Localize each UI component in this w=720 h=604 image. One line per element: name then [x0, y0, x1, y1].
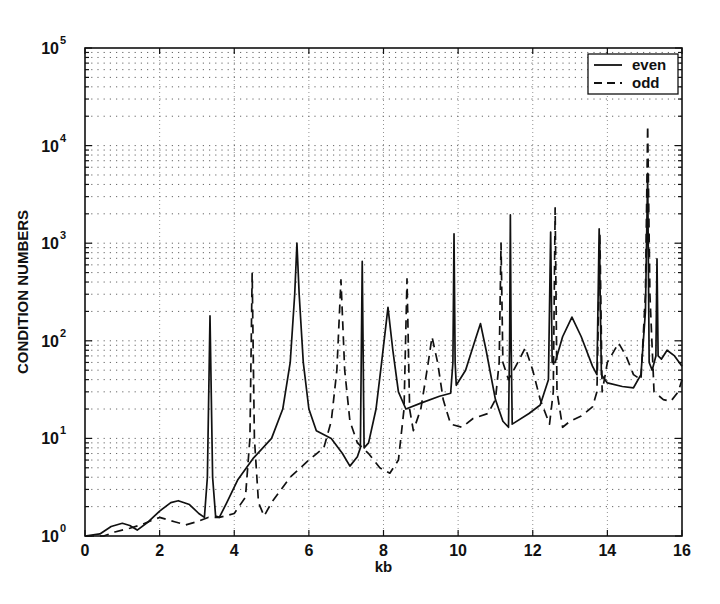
- x-tick-label: 4: [230, 542, 239, 559]
- x-tick-label: 0: [81, 542, 90, 559]
- y-tick-label: 10: [41, 138, 59, 155]
- x-tick-labels: 0246810121416: [81, 542, 691, 559]
- series-even-line: [85, 173, 682, 536]
- x-tick-label: 14: [598, 542, 616, 559]
- y-tick-exponent: 5: [60, 34, 66, 46]
- x-tick-label: 10: [449, 542, 467, 559]
- y-tick-label: 10: [41, 528, 59, 545]
- legend: even odd: [588, 54, 678, 94]
- y-tick-exponent: 4: [60, 132, 67, 144]
- legend-label-odd: odd: [632, 74, 660, 91]
- y-tick-label: 10: [41, 40, 59, 57]
- x-tick-label: 6: [304, 542, 313, 559]
- y-tick-label: 10: [41, 235, 59, 252]
- y-tick-label: 10: [41, 430, 59, 447]
- y-tick-exponent: 1: [60, 424, 66, 436]
- y-tick-exponent: 2: [60, 327, 66, 339]
- series-lines: [85, 126, 682, 536]
- y-tick-exponent: 0: [60, 522, 66, 534]
- condition-number-chart: 0246810121416 100101102103104105 kb COND…: [0, 0, 720, 604]
- y-axis-title: CONDITION NUMBERS: [14, 210, 31, 374]
- x-tick-label: 8: [379, 542, 388, 559]
- y-tick-labels: 100101102103104105: [41, 34, 67, 545]
- x-axis-title: kb: [375, 558, 393, 575]
- y-tick-label: 10: [41, 333, 59, 350]
- x-tick-label: 12: [524, 542, 542, 559]
- x-tick-label: 2: [155, 542, 164, 559]
- x-tick-label: 16: [673, 542, 691, 559]
- grid-lines: [85, 48, 682, 536]
- legend-label-even: even: [632, 56, 666, 73]
- series-odd-line: [85, 126, 682, 536]
- y-tick-exponent: 3: [60, 229, 66, 241]
